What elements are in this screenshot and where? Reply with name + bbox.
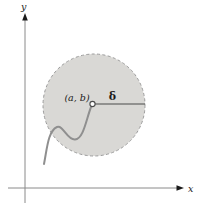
radius-delta-label: δ xyxy=(109,90,116,103)
y-axis-arrowhead-icon xyxy=(22,13,28,21)
y-axis-label: y xyxy=(20,1,27,12)
center-point-marker xyxy=(90,101,95,106)
delta-neighborhood-diagram: y x (a, b) δ xyxy=(0,0,197,210)
x-axis-arrowhead-icon xyxy=(177,185,185,191)
diagram-canvas: y x (a, b) δ xyxy=(0,0,197,210)
point-label: (a, b) xyxy=(64,92,89,103)
x-axis-label: x xyxy=(188,183,194,194)
